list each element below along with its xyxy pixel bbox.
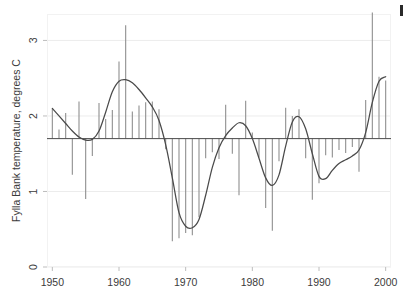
chart-figure: 1950196019701980199020000123Fylla Bank t… xyxy=(0,0,405,307)
x-axis: 195019601970198019902000 xyxy=(41,267,398,288)
y-tick-label-0: 0 xyxy=(27,264,39,270)
x-tick-label-1960: 1960 xyxy=(107,276,131,288)
x-tick-label-1980: 1980 xyxy=(241,276,265,288)
y-tick-label-2: 2 xyxy=(27,113,39,119)
x-tick-label-1970: 1970 xyxy=(174,276,198,288)
x-tick-label-2000: 2000 xyxy=(374,276,398,288)
x-tick-label-1950: 1950 xyxy=(41,276,65,288)
edge-artifact-mark xyxy=(400,5,403,16)
y-tick-label-3: 3 xyxy=(27,37,39,43)
y-axis-title: Fylla Bank temperature, degrees C xyxy=(10,59,22,222)
y-axis: 0123 xyxy=(27,37,47,270)
x-tick-label-1990: 1990 xyxy=(307,276,331,288)
temperature-chart: 1950196019701980199020000123Fylla Bank t… xyxy=(0,0,405,307)
y-tick-label-1: 1 xyxy=(27,188,39,194)
